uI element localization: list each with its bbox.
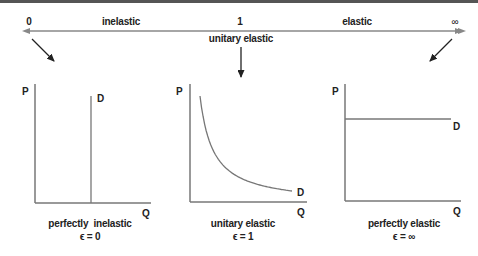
- arrow-to-perfectly-inelastic: [32, 39, 54, 61]
- panel3-y-axis-label: P: [332, 86, 338, 97]
- panel-perfectly-elastic: [345, 84, 461, 201]
- scale-right-end-label: ∞: [452, 16, 459, 27]
- panel3-caption: perfectly elastic: [368, 218, 440, 229]
- panel2-curve-label: D: [297, 187, 304, 198]
- scale-left-end-label: 0: [26, 16, 31, 27]
- panel2-formula: ϵ = 1: [233, 231, 254, 242]
- panel3-formula: ϵ = ∞: [393, 231, 415, 242]
- panel-perfectly-inelastic: [35, 84, 151, 203]
- arrow-to-perfectly-elastic: [430, 39, 452, 61]
- panel-unitary-elastic: [190, 84, 307, 202]
- panel1-formula: ϵ = 0: [80, 231, 101, 242]
- panel2-x-axis-label: Q: [297, 207, 305, 218]
- scale-unitary-elastic-label: unitary elastic: [209, 33, 273, 44]
- demand-curve-hyperbola: [200, 96, 292, 191]
- panel1-caption: perfectly inelastic: [48, 218, 131, 229]
- scale-elastic-label: elastic: [342, 16, 372, 27]
- panel3-x-axis-label: Q: [453, 206, 461, 217]
- panel2-caption: unitary elastic: [211, 218, 275, 229]
- scale-inelastic-label: inelastic: [102, 16, 140, 27]
- scale-right-arrowhead: [458, 28, 466, 34]
- panel3-curve-label: D: [453, 121, 460, 132]
- panel1-y-axis-label: P: [22, 86, 28, 97]
- scale-midpoint-label: 1: [237, 16, 242, 27]
- panel1-curve-label: D: [97, 93, 104, 104]
- scale-left-arrowhead: [22, 28, 30, 34]
- panel1-x-axis-label: Q: [142, 208, 150, 219]
- panel2-y-axis-label: P: [176, 86, 182, 97]
